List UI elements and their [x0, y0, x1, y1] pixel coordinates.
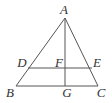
segment-AC	[65, 18, 98, 86]
label-B: B	[6, 85, 14, 100]
label-E: E	[92, 55, 101, 70]
label-C: C	[97, 85, 106, 100]
triangle-diagram: A B C D E F G	[0, 0, 112, 103]
label-A: A	[59, 2, 68, 17]
label-G: G	[62, 85, 72, 100]
diagram-svg: A B C D E F G	[0, 0, 112, 103]
segments	[16, 18, 98, 86]
labels: A B C D E F G	[6, 2, 106, 100]
label-D: D	[16, 55, 27, 70]
segment-AB	[16, 18, 65, 86]
label-F: F	[54, 55, 64, 70]
